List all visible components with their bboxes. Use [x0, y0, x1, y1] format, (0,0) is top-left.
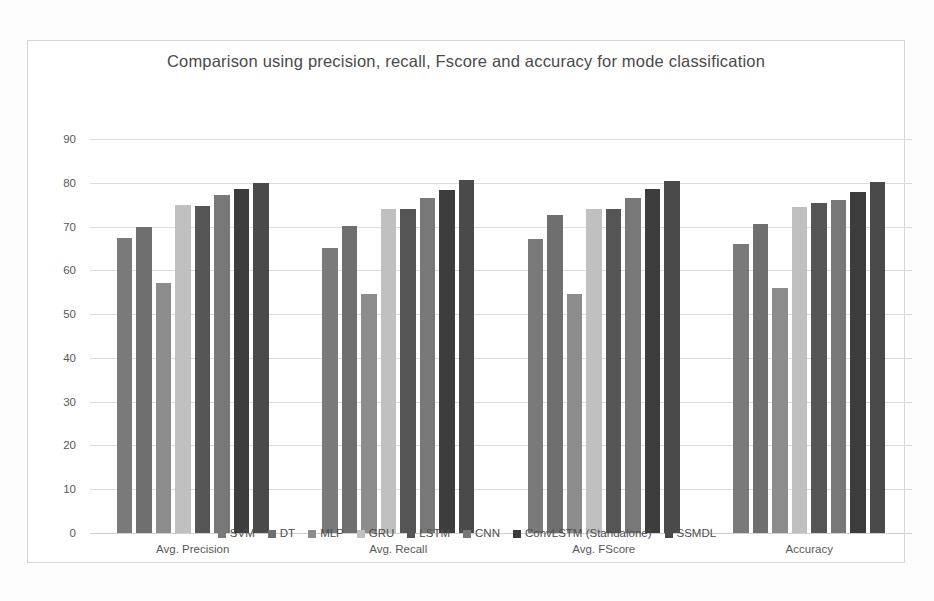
bar-dt[interactable]: [136, 227, 152, 533]
bar-lstm[interactable]: [195, 206, 211, 533]
bar-cnn[interactable]: [625, 198, 641, 533]
bar-dt[interactable]: [547, 215, 563, 533]
chart-title: Comparison using precision, recall, Fsco…: [28, 52, 904, 71]
y-tick-label-10: 10: [63, 483, 76, 495]
legend-swatch-icon: [357, 530, 365, 538]
legend-swatch-icon: [665, 530, 673, 538]
bar-mlp[interactable]: [567, 294, 583, 533]
bar-lstm[interactable]: [811, 203, 827, 533]
x-tick-label: Avg. FScore: [501, 543, 707, 555]
y-tick-label-20: 20: [63, 439, 76, 451]
y-tick-label-90: 90: [63, 133, 76, 145]
bar-cnn[interactable]: [831, 200, 847, 533]
legend-swatch-icon: [513, 530, 521, 538]
chart-page: Comparison using precision, recall, Fsco…: [0, 0, 934, 601]
bar-lstm[interactable]: [606, 209, 622, 533]
legend-item[interactable]: MLP: [308, 528, 344, 540]
y-tick-label-50: 50: [63, 308, 76, 320]
legend-item[interactable]: GRU: [357, 528, 395, 540]
legend-item[interactable]: LSTM: [407, 528, 450, 540]
x-tick-label: Accuracy: [707, 543, 913, 555]
bar-cnn[interactable]: [420, 198, 436, 533]
bar-dt[interactable]: [753, 224, 769, 533]
bar-group: Avg. Recall: [296, 139, 502, 533]
legend-swatch-icon: [268, 530, 276, 538]
bar-group: Avg. FScore: [501, 139, 707, 533]
y-axis: 0102030405060708090: [28, 139, 84, 533]
chart-legend: SVMDTMLPGRULSTMCNNConvLSTM (Standalone)S…: [28, 528, 906, 540]
bar-convlstm-standalone[interactable]: [439, 190, 455, 533]
legend-label: CNN: [475, 528, 500, 540]
y-tick-label-30: 30: [63, 396, 76, 408]
bar-ssmdl[interactable]: [253, 183, 269, 533]
legend-label: SVM: [230, 528, 255, 540]
x-tick-label: Avg. Recall: [296, 543, 502, 555]
bar-ssmdl[interactable]: [664, 181, 680, 533]
plot-area: Avg. PrecisionAvg. RecallAvg. FScoreAccu…: [90, 139, 912, 533]
bar-lstm[interactable]: [400, 209, 416, 533]
legend-swatch-icon: [407, 530, 415, 538]
bar-mlp[interactable]: [772, 288, 788, 533]
legend-label: SSMDL: [677, 528, 717, 540]
bar-convlstm-standalone[interactable]: [850, 192, 866, 533]
bar-group: Avg. Precision: [90, 139, 296, 533]
legend-label: MLP: [320, 528, 344, 540]
y-tick-label-40: 40: [63, 352, 76, 364]
legend-label: ConvLSTM (Standalone): [525, 528, 652, 540]
chart-frame: Comparison using precision, recall, Fsco…: [27, 40, 905, 563]
bar-gru[interactable]: [586, 209, 602, 533]
bar-cnn[interactable]: [214, 195, 230, 533]
bar-gru[interactable]: [381, 209, 397, 533]
legend-item[interactable]: SVM: [218, 528, 255, 540]
y-tick-label-80: 80: [63, 177, 76, 189]
bar-dt[interactable]: [342, 226, 358, 533]
legend-swatch-icon: [308, 530, 316, 538]
y-tick-label-70: 70: [63, 221, 76, 233]
legend-label: DT: [280, 528, 295, 540]
bar-group-bars: [90, 139, 296, 533]
bar-convlstm-standalone[interactable]: [234, 189, 250, 533]
bar-group-bars: [501, 139, 707, 533]
bar-mlp[interactable]: [156, 283, 172, 533]
legend-label: LSTM: [419, 528, 450, 540]
bar-svm[interactable]: [322, 248, 338, 533]
bar-gru[interactable]: [792, 207, 808, 533]
legend-item[interactable]: ConvLSTM (Standalone): [513, 528, 652, 540]
legend-swatch-icon: [463, 530, 471, 538]
legend-swatch-icon: [218, 530, 226, 538]
bar-svm[interactable]: [528, 239, 544, 533]
bar-ssmdl[interactable]: [870, 182, 886, 533]
x-tick-label: Avg. Precision: [90, 543, 296, 555]
bar-group: Accuracy: [707, 139, 913, 533]
legend-item[interactable]: DT: [268, 528, 295, 540]
bar-gru[interactable]: [175, 205, 191, 533]
bar-svm[interactable]: [733, 244, 749, 533]
legend-label: GRU: [369, 528, 395, 540]
bar-mlp[interactable]: [361, 294, 377, 533]
bar-convlstm-standalone[interactable]: [645, 189, 661, 533]
legend-item[interactable]: CNN: [463, 528, 500, 540]
y-tick-label-60: 60: [63, 264, 76, 276]
bar-group-bars: [296, 139, 502, 533]
bar-svm[interactable]: [117, 238, 133, 534]
bar-group-bars: [707, 139, 913, 533]
bar-ssmdl[interactable]: [459, 180, 475, 533]
legend-item[interactable]: SSMDL: [665, 528, 717, 540]
